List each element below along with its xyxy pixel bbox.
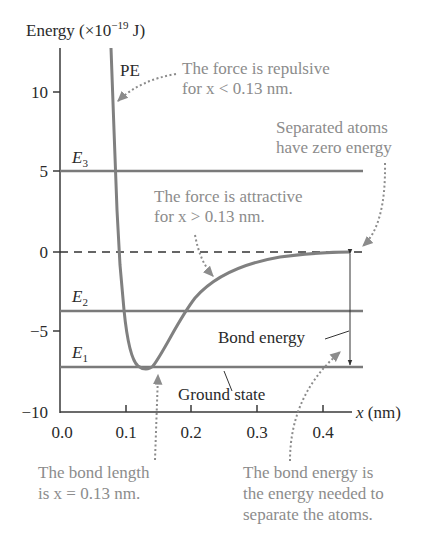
x-ticks (126, 405, 323, 412)
bond-length-pointer (155, 375, 158, 460)
svg-text:0.2: 0.2 (180, 423, 201, 442)
svg-text:−10: −10 (21, 403, 48, 422)
attractive-pointer (195, 235, 213, 276)
svg-text:−5: −5 (30, 322, 48, 341)
x-axis-label: x (nm) (355, 403, 401, 422)
svg-text:Separated atoms: Separated atoms (276, 118, 388, 137)
y-ticks (53, 92, 60, 331)
bond-energy-leader (325, 331, 349, 339)
svg-text:The force is attractive: The force is attractive (154, 187, 303, 206)
svg-text:0.4: 0.4 (312, 423, 334, 442)
y-axis-label: Energy (×10−19 J) (26, 19, 145, 40)
svg-text:for x > 0.13 nm.: for x > 0.13 nm. (154, 207, 265, 226)
svg-text:0: 0 (40, 243, 49, 262)
svg-text:The force is repulsive: The force is repulsive (182, 59, 330, 78)
svg-text:10: 10 (31, 83, 48, 102)
annotation-repulsive: The force is repulsive for x < 0.13 nm. (182, 59, 330, 98)
svg-text:0.3: 0.3 (246, 423, 267, 442)
svg-text:5: 5 (40, 162, 49, 181)
bond-energy-pointer (290, 352, 340, 461)
svg-text:have zero energy: have zero energy (276, 138, 392, 157)
annotation-bond-energy: The bond energy is the energy needed to … (243, 463, 384, 524)
svg-text:The bond energy is: The bond energy is (243, 463, 373, 482)
separated-pointer (363, 163, 385, 246)
y-tick-labels: 10 5 0 −5 −10 (21, 83, 48, 422)
svg-text:the energy needed to: the energy needed to (243, 484, 384, 503)
ground-state-label: Ground state (178, 385, 265, 404)
energy-diagram: Energy (×10−19 J) 10 5 0 −5 −10 0.0 0.1 … (0, 0, 423, 536)
svg-text:separate the atoms.: separate the atoms. (243, 505, 373, 524)
svg-text:for x < 0.13 nm.: for x < 0.13 nm. (182, 79, 293, 98)
svg-text:E3: E3 (71, 148, 88, 169)
svg-text:The bond length: The bond length (38, 463, 150, 482)
svg-text:is x = 0.13 nm.: is x = 0.13 nm. (38, 484, 140, 503)
svg-text:E2: E2 (71, 287, 88, 308)
svg-text:0.0: 0.0 (51, 423, 72, 442)
annotation-attractive: The force is attractive for x > 0.13 nm. (154, 187, 303, 226)
annotation-separated: Separated atoms have zero energy (276, 118, 392, 157)
pe-label: PE (120, 61, 140, 80)
annotation-bond-length: The bond length is x = 0.13 nm. (38, 463, 150, 503)
bond-energy-label: Bond energy (218, 328, 306, 347)
level-labels: E3 E2 E1 (71, 148, 88, 364)
svg-text:E1: E1 (71, 343, 88, 364)
svg-text:0.1: 0.1 (115, 423, 136, 442)
